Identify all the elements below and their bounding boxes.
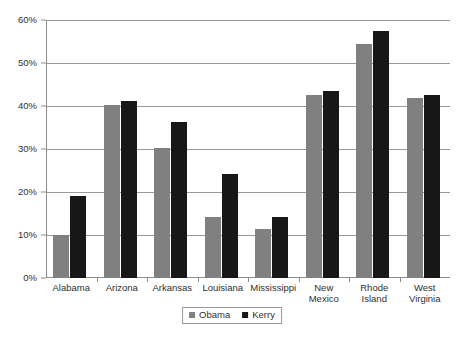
bar-obama (205, 217, 221, 278)
bar-kerry (222, 174, 238, 278)
x-axis-label-line: Virginia (400, 293, 451, 304)
x-axis-tick-label: WestVirginia (400, 282, 451, 304)
x-axis-label-line: Island (349, 293, 400, 304)
x-axis-tick-label: Alabama (46, 282, 97, 293)
x-axis-tick-label: Louisiana (198, 282, 249, 293)
bar-kerry (373, 31, 389, 278)
y-axis-tick-label: 30% (18, 144, 37, 154)
bar-kerry (272, 217, 288, 278)
bar-obama (53, 235, 69, 278)
bar-group (147, 20, 198, 278)
bar-kerry (121, 101, 137, 278)
obama-swatch-icon (189, 312, 195, 318)
x-axis-tick-label: Mississippi (248, 282, 299, 293)
bar-kerry (171, 122, 187, 278)
x-axis-tick-label: RhodeIsland (349, 282, 400, 304)
x-axis-tick-label: Arkansas (147, 282, 198, 293)
y-axis-tick-label: 60% (18, 15, 37, 25)
x-axis-label-line: Mississippi (248, 282, 299, 293)
x-axis-label-line: Rhode (349, 282, 400, 293)
bar-group (97, 20, 148, 278)
legend-item-label: Kerry (252, 310, 275, 320)
x-axis-label-line: Arkansas (147, 282, 198, 293)
bar-obama (255, 229, 271, 278)
y-axis-tick-label: 50% (18, 58, 37, 68)
x-axis-label-line: New (299, 282, 350, 293)
x-axis-tick-label: Arizona (97, 282, 148, 293)
legend-item-label: Obama (199, 310, 230, 320)
bar-kerry (424, 95, 440, 278)
x-axis-tick-label: NewMexico (299, 282, 350, 304)
bar-group (198, 20, 249, 278)
x-axis-label-line: Arizona (97, 282, 148, 293)
bars-layer (46, 20, 450, 278)
legend-item-kerry: Kerry (242, 310, 275, 320)
x-axis-label-line: West (400, 282, 451, 293)
x-axis-label-line: Louisiana (198, 282, 249, 293)
bar-obama (356, 44, 372, 278)
y-axis-tick-label: 0% (23, 273, 37, 283)
bar-chart: 0%10%20%30%40%50%60% AlabamaArizonaArkan… (0, 0, 464, 338)
bar-obama (407, 98, 423, 278)
bar-obama (104, 105, 120, 278)
y-axis-tick-label: 40% (18, 101, 37, 111)
y-axis-tick-label: 10% (18, 230, 37, 240)
bar-group (248, 20, 299, 278)
x-axis-label-line: Alabama (46, 282, 97, 293)
kerry-swatch-icon (242, 312, 248, 318)
bar-group (400, 20, 451, 278)
bar-group (46, 20, 97, 278)
y-axis-tick-label: 20% (18, 187, 37, 197)
bar-kerry (70, 196, 86, 278)
y-axis: 0%10%20%30%40%50%60% (0, 0, 46, 338)
bar-group (349, 20, 400, 278)
chart-legend: ObamaKerry (182, 307, 282, 324)
x-axis-label-line: Mexico (299, 293, 350, 304)
legend-item-obama: Obama (189, 310, 230, 320)
bar-obama (154, 148, 170, 278)
bar-obama (306, 95, 322, 278)
bar-group (299, 20, 350, 278)
bar-kerry (323, 91, 339, 278)
